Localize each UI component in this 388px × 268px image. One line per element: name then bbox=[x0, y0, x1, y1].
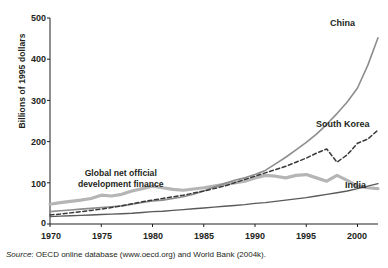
series-label-india: India bbox=[345, 180, 366, 190]
annotation-odf-line1: Global net official bbox=[78, 168, 163, 179]
annotation-odf-line2: development finance bbox=[78, 179, 163, 190]
source-text: : OECD online database (www.oecd.org) an… bbox=[31, 250, 266, 259]
plot-area bbox=[0, 0, 388, 268]
source-caption: Source: OECD online database (www.oecd.o… bbox=[6, 250, 266, 259]
series-label-south-korea: South Korea bbox=[316, 119, 370, 129]
annotation-odf: Global net official development finance bbox=[78, 168, 163, 190]
leader-china bbox=[334, 30, 346, 52]
series-label-china: China bbox=[330, 18, 355, 28]
source-prefix: Source bbox=[6, 250, 31, 259]
chart-container: Billions of 1995 dollars 500 400 300 200… bbox=[0, 0, 388, 268]
